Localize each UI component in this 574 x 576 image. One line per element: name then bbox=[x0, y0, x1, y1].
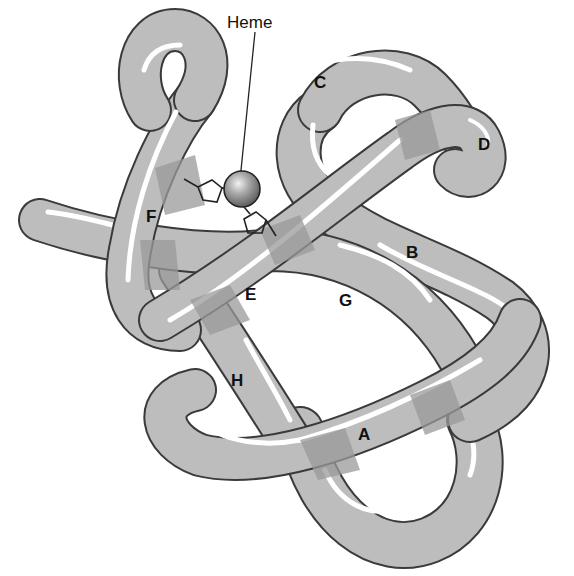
helix-label-a: A bbox=[358, 425, 370, 444]
helix-label-e: E bbox=[245, 285, 256, 304]
helix-label-c: C bbox=[314, 73, 326, 92]
helix-label-h: H bbox=[231, 371, 243, 390]
myoglobin-diagram: Heme C D F B E G H A bbox=[0, 0, 574, 576]
helix-label-f: F bbox=[146, 207, 156, 226]
heme-callout-line bbox=[240, 32, 255, 180]
heme-label: Heme bbox=[227, 13, 272, 32]
heme-sphere-icon bbox=[224, 171, 260, 207]
helix-label-g: G bbox=[339, 291, 352, 310]
helix-label-b: B bbox=[406, 243, 418, 262]
helix-label-d: D bbox=[478, 135, 490, 154]
